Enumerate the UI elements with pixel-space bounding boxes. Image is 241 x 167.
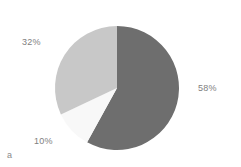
- pie-slices: [55, 26, 179, 150]
- pie-slice-label-10: 10%: [34, 137, 53, 146]
- pie-chart-figure: 58% 10% 32% a: [0, 0, 241, 167]
- pie-slice-label-32: 32%: [22, 38, 41, 47]
- pie-slice-label-58: 58%: [198, 84, 217, 93]
- panel-caption: a: [7, 151, 12, 160]
